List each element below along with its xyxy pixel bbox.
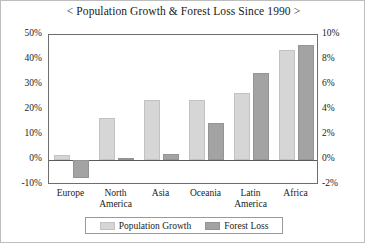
bar-forest-loss [73, 160, 89, 178]
left-axis-tick-label: -10% [21, 179, 42, 189]
bar-forest-loss [163, 154, 179, 160]
legend-item-forest-loss: Forest Loss [205, 221, 268, 231]
bar-forest-loss [118, 158, 134, 161]
right-axis-tick-label: 10% [322, 29, 339, 39]
right-axis-tick-label: 4% [322, 104, 335, 114]
bar-forest-loss [253, 73, 269, 161]
bar-forest-loss [208, 123, 224, 161]
bar-forest-loss [298, 45, 314, 160]
right-axis-tick-label: 2% [322, 129, 335, 139]
left-axis-tick-label: 0% [29, 154, 42, 164]
chart-legend: Population Growth Forest Loss [85, 217, 283, 234]
left-axis-tick-label: 20% [25, 104, 42, 114]
bar-population-growth [189, 100, 205, 160]
left-axis-tick-label: 10% [25, 129, 42, 139]
legend-label: Population Growth [119, 221, 192, 231]
bars-layer [49, 35, 317, 183]
left-axis-tick-label: 30% [25, 79, 42, 89]
dark-gray-swatch-icon [205, 222, 220, 230]
chart-title: < Population Growth & Forest Loss Since … [1, 5, 365, 17]
right-axis-tick-label: 6% [322, 79, 335, 89]
legend-item-population-growth: Population Growth [100, 221, 192, 231]
left-axis-tick-label: 40% [25, 54, 42, 64]
right-axis-tick-label: 8% [322, 54, 335, 64]
bar-population-growth [99, 118, 115, 161]
bar-population-growth [279, 50, 295, 160]
bar-population-growth [144, 100, 160, 160]
left-axis-tick-label: 50% [25, 29, 42, 39]
chart-figure: < Population Growth & Forest Loss Since … [0, 0, 365, 243]
bar-population-growth [54, 155, 70, 160]
category-label: Africa [266, 188, 326, 199]
legend-label: Forest Loss [224, 221, 268, 231]
plot-area [48, 34, 318, 184]
bar-population-growth [234, 93, 250, 161]
light-gray-swatch-icon [100, 222, 115, 230]
right-axis-tick-label: 0% [322, 154, 335, 164]
